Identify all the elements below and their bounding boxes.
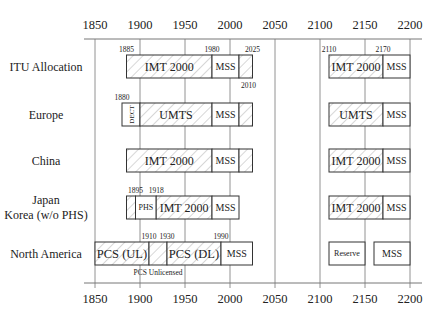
band-label: MSS (386, 202, 406, 213)
x-tick-label-bottom: 1850 (83, 292, 108, 306)
row-label: Europe (29, 108, 64, 122)
boundary-annotation: 1918 (149, 186, 164, 195)
x-tick-label-bottom: 2150 (353, 292, 378, 306)
boundary-annotation: 1910 (142, 232, 157, 241)
boundary-annotation: 1930 (160, 232, 175, 241)
band-label: IMT 2000 (145, 60, 194, 74)
band-label: MSS (386, 61, 406, 72)
row-label: Japan (32, 193, 59, 207)
x-tick-label-top: 1950 (173, 18, 198, 32)
band-label: IMT 2000 (332, 60, 381, 74)
band-label: MSS (215, 155, 235, 166)
band-label: DECT (128, 105, 136, 124)
x-tick-label-top: 2100 (308, 18, 333, 32)
boundary-annotation: 1990 (214, 232, 229, 241)
band-label: IMT 2000 (332, 154, 381, 168)
frequency-band (239, 103, 253, 126)
boundary-annotation: 1880 (115, 93, 130, 102)
band-label: UMTS (159, 108, 192, 122)
band-label: MSS (215, 202, 235, 213)
band-label: UMTS (339, 108, 372, 122)
x-tick-label-bottom: 2050 (263, 292, 288, 306)
x-tick-label-bottom: 1950 (173, 292, 198, 306)
band-label: MSS (215, 61, 235, 72)
band-label: MSS (382, 248, 402, 259)
x-tick-label-top: 2050 (263, 18, 288, 32)
frequency-allocation-chart: 1850185019001900195019502000200020502050… (0, 0, 439, 324)
row-label: Korea (w/o PHS) (4, 208, 87, 222)
allocation-row: JapanKorea (w/o PHS)PHSIMT 2000MSSIMT 20… (4, 186, 410, 222)
x-tick-label-top: 2150 (353, 18, 378, 32)
allocation-row: ChinaIMT 2000MSSIMT 2000MSS (32, 149, 410, 172)
x-tick-label-top: 1900 (128, 18, 153, 32)
x-tick-label-top: 2000 (218, 18, 243, 32)
frequency-band (149, 242, 167, 265)
allocation-row: North AmericaPCS (UL)PCS (DL)MSSReserveM… (10, 232, 410, 277)
x-tick-label-bottom: 2100 (308, 292, 333, 306)
boundary-annotation: 1895 (128, 186, 143, 195)
boundary-annotation: 2170 (376, 45, 391, 54)
band-label: PCS (UL) (97, 247, 147, 261)
band-label: MSS (215, 109, 235, 120)
band-label: MSS (386, 109, 406, 120)
x-tick-label-bottom: 2000 (218, 292, 243, 306)
boundary-annotation: 1980 (205, 45, 220, 54)
x-tick-label-top: 2200 (398, 18, 423, 32)
band-label: MSS (386, 155, 406, 166)
boundary-annotation: 2025 (245, 45, 260, 54)
allocation-rows: ITU AllocationIMT 2000MSSIMT 2000MSS1885… (4, 45, 410, 277)
row-label: North America (10, 247, 82, 261)
band-note: PCS Unlicensed (134, 268, 183, 277)
frequency-band (239, 55, 253, 78)
band-label: IMT 2000 (332, 201, 381, 215)
allocation-row: ITU AllocationIMT 2000MSSIMT 2000MSS1885… (10, 45, 410, 90)
frequency-band (127, 196, 136, 219)
allocation-row: EuropeDECTUMTSMSSUMTSMSS1880 (29, 93, 410, 126)
frequency-band (239, 149, 253, 172)
row-label: China (32, 154, 61, 168)
x-tick-label-bottom: 1900 (128, 292, 153, 306)
band-label: MSS (227, 248, 247, 259)
band-label: PHS (139, 203, 154, 212)
x-tick-label-bottom: 2200 (398, 292, 423, 306)
x-tick-label-top: 1850 (83, 18, 108, 32)
band-label: IMT 2000 (160, 201, 209, 215)
band-label: PCS (DL) (169, 247, 219, 261)
boundary-annotation: 2110 (322, 45, 337, 54)
boundary-annotation: 2010 (241, 81, 256, 90)
row-label: ITU Allocation (10, 60, 83, 74)
band-label: IMT 2000 (145, 154, 194, 168)
boundary-annotation: 1885 (119, 45, 134, 54)
band-label: Reserve (334, 249, 360, 258)
